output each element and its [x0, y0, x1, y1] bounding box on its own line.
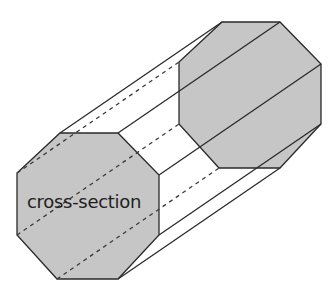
octagonal-prism-diagram: cross-section	[0, 0, 335, 292]
prism-drawing	[0, 0, 335, 292]
cross-section-label: cross-section	[27, 191, 141, 212]
